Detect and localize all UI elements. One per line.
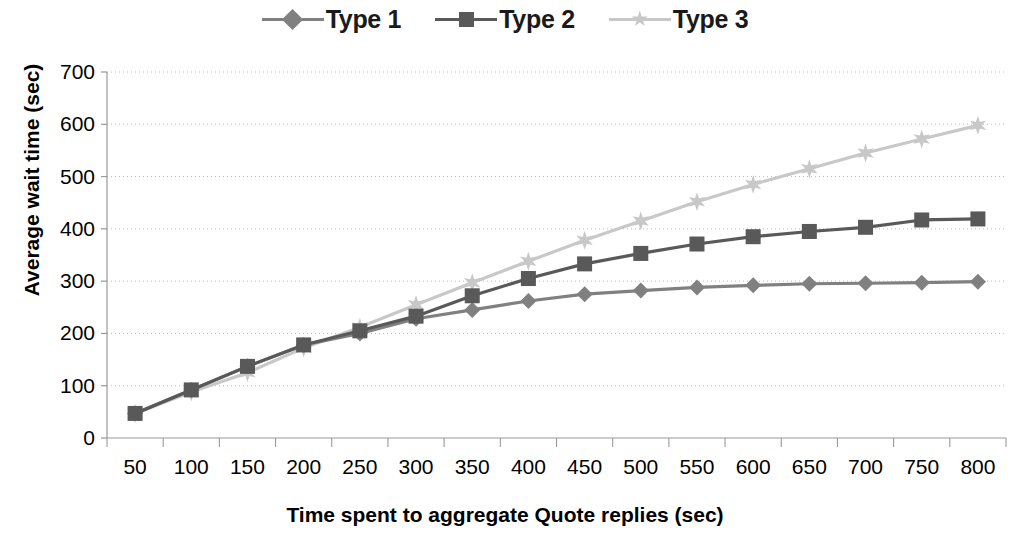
data-point-marker [746, 229, 761, 244]
data-point-marker [914, 212, 929, 227]
data-point-marker [858, 220, 873, 235]
data-point-marker [801, 276, 817, 292]
x-axis-title: Time spent to aggregate Quote replies (s… [0, 503, 1010, 527]
x-axis-tick-label: 200 [286, 455, 321, 479]
series-type-3 [127, 116, 986, 423]
x-axis-tick-label: 450 [567, 455, 602, 479]
data-point-marker [352, 323, 367, 338]
data-point-marker [464, 302, 480, 318]
x-axis-tick-label: 350 [455, 455, 490, 479]
series-type-2 [128, 211, 986, 421]
x-axis-tick-label: 650 [792, 455, 827, 479]
data-point-marker [689, 192, 705, 211]
data-point-marker [689, 237, 704, 252]
series-line [135, 282, 978, 414]
y-axis-tick-label: 400 [20, 217, 95, 241]
data-point-marker [128, 406, 143, 421]
x-axis-tick-label: 400 [511, 455, 546, 479]
x-axis-tick-label: 250 [342, 455, 377, 479]
data-point-marker [577, 286, 593, 302]
y-axis-tick-label: 500 [20, 165, 95, 189]
y-axis-tick-label: 300 [20, 269, 95, 293]
x-axis-tick-label: 100 [174, 455, 209, 479]
x-axis-tick-label: 500 [623, 455, 658, 479]
data-point-marker [633, 283, 649, 299]
data-point-marker [240, 359, 255, 374]
data-point-marker [576, 231, 592, 250]
data-point-marker [914, 275, 930, 291]
y-axis-tick-label: 100 [20, 374, 95, 398]
x-axis-tick-label: 700 [848, 455, 883, 479]
data-point-marker [521, 271, 536, 286]
series-line [135, 219, 978, 414]
y-axis-tick-label: 700 [20, 60, 95, 84]
data-point-marker [520, 293, 536, 309]
x-axis-tick-label: 800 [960, 455, 995, 479]
data-point-marker [970, 274, 986, 290]
data-point-marker [577, 256, 592, 271]
data-point-marker [633, 212, 649, 231]
data-point-marker [745, 277, 761, 293]
data-point-marker [465, 288, 480, 303]
x-axis-tick-label: 50 [123, 455, 146, 479]
chart-container: Type 1 Type 2 Type 3 Average wait time (… [0, 0, 1010, 538]
x-axis-tick-label: 150 [230, 455, 265, 479]
x-axis-tick-label: 300 [399, 455, 434, 479]
data-point-marker [802, 224, 817, 239]
data-point-marker [520, 252, 536, 271]
data-point-marker [858, 275, 874, 291]
y-axis-tick-label: 600 [20, 112, 95, 136]
data-point-marker [970, 211, 985, 226]
series-line [135, 125, 978, 413]
data-point-marker [633, 246, 648, 261]
x-axis-tick-label: 600 [736, 455, 771, 479]
x-axis-tick-label: 750 [904, 455, 939, 479]
data-point-marker [409, 309, 424, 324]
x-axis-tick-label: 550 [679, 455, 714, 479]
data-point-marker [689, 279, 705, 295]
data-point-marker [296, 337, 311, 352]
series-type-1 [127, 274, 986, 422]
data-point-marker [184, 382, 199, 397]
y-axis-tick-label: 200 [20, 321, 95, 345]
y-axis-tick-label: 0 [20, 426, 95, 450]
